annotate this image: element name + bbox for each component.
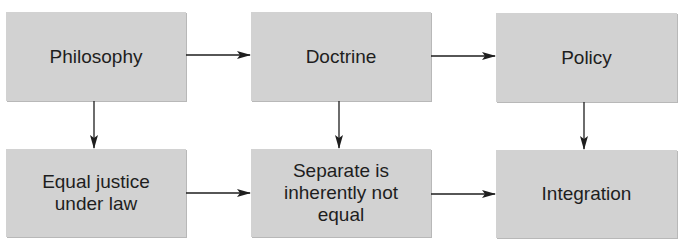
edges [0,0,685,252]
